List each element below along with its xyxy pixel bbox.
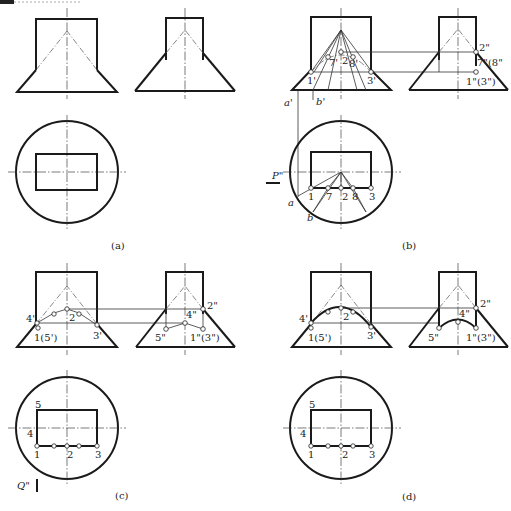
label-1-3-double-prime: 1"(3") [466, 332, 496, 343]
label-3: 3 [369, 191, 375, 202]
panel-d-front-view: 4' 1(5') 2 3' [292, 263, 476, 355]
label-a-prime: a' [284, 97, 293, 108]
label-8: 8 [352, 191, 358, 202]
label-1-3-double-prime: 1"(3") [466, 76, 496, 87]
panel-d-top-view: 5 4 1 2 3 [283, 370, 401, 486]
label-4-prime: 4' [299, 313, 308, 324]
label-2: 2 [67, 449, 73, 460]
label-5-double-prime: 5" [155, 332, 166, 343]
label-b-prime: b' [316, 96, 325, 107]
panel-c-top-view: 5 4 1 2 3 Q" [8, 370, 126, 492]
caption-a: (a) [111, 240, 125, 251]
caption-c: (c) [115, 490, 129, 501]
caption-b: (b) [402, 240, 416, 251]
label-3: 3 [369, 449, 375, 460]
label-8-prime: 8' [349, 58, 358, 69]
label-2: 2 [342, 191, 348, 202]
label-2-double-prime: 2" [479, 42, 490, 53]
panel-b-front-view: 1' 7' 2 8' 3' a' b' [284, 8, 476, 197]
label-7-8-double-prime: 7"(8" [477, 57, 503, 68]
label-3-prime: 3' [367, 330, 376, 341]
label-5: 5 [309, 399, 315, 410]
panel-c: 4' 1(5') 2 3' 2" 4" 5" 1"(3") [8, 263, 235, 501]
label-2-double-prime: 2" [207, 300, 218, 311]
panel-a-side-view [135, 8, 235, 99]
panel-d: 4' 1(5') 2 3' 2" 4" 5" 1"(3") [283, 263, 508, 502]
label-1-prime: 1' [307, 75, 316, 86]
label-4-double-prime: 4" [186, 309, 197, 320]
label-3: 3 [95, 449, 101, 460]
plane-q-label: Q" [17, 480, 30, 491]
label-1-5-prime: 1(5') [308, 332, 331, 343]
label-1: 1 [308, 191, 314, 202]
panel-a-front-view [17, 8, 117, 99]
label-1: 1 [34, 449, 40, 460]
label-4: 4 [300, 428, 306, 439]
label-3-prime: 3' [93, 330, 102, 341]
label-1: 1 [308, 449, 314, 460]
panel-d-side-view: 2" 4" 5" 1"(3") [409, 263, 508, 355]
label-2-prime: 2 [342, 55, 348, 66]
label-7: 7 [326, 191, 332, 202]
panel-a: (a) [8, 8, 235, 251]
label-a: a [288, 197, 294, 208]
plane-p-label: P" [271, 170, 283, 181]
label-4-prime: 4' [26, 313, 35, 324]
label-b: b [307, 212, 313, 223]
label-5-double-prime: 5" [428, 332, 439, 343]
label-2: 2 [342, 449, 348, 460]
panel-c-front-view: 4' 1(5') 2 3' [17, 263, 205, 355]
label-4-double-prime: 4" [459, 308, 470, 319]
label-2-double-prime: 2" [480, 298, 491, 309]
label-2-prime: 2 [343, 311, 349, 322]
technical-drawing: (a) [0, 0, 511, 511]
label-1-3-double-prime: 1"(3") [190, 332, 220, 343]
label-4: 4 [27, 428, 33, 439]
panel-b: 1' 7' 2 8' 3' a' b' 2" 7"(8" 1"(3") [266, 8, 508, 251]
label-5: 5 [35, 399, 41, 410]
header-fragment [0, 0, 82, 4]
caption-d: (d) [402, 491, 416, 502]
panel-b-side-view: 2" 7"(8" 1"(3") [409, 8, 508, 99]
label-2-prime: 2 [69, 312, 75, 323]
label-3-prime: 3' [367, 75, 376, 86]
label-7-prime: 7' [329, 57, 338, 68]
label-1-5-prime: 1(5') [34, 332, 57, 343]
panel-b-top-view: 1 7 2 8 3 a b P" [266, 115, 401, 229]
panel-a-top-view [8, 115, 126, 229]
